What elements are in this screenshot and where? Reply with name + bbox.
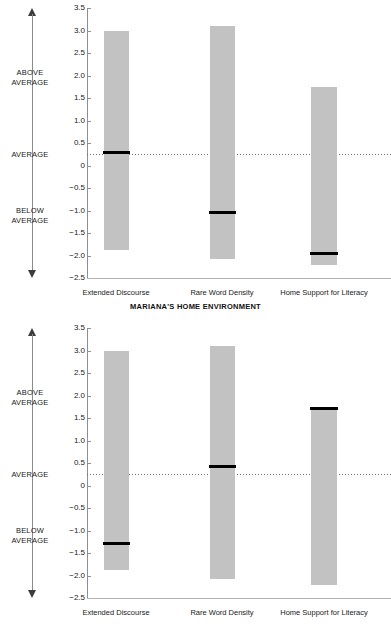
y-axis-tick-label: 2.0 [59,72,85,80]
y-axis-tick-label-text: 0.5 [61,139,85,147]
y-axis-tick-label-text: 3.5 [61,4,85,12]
y-axis-tick-label-text: 2.5 [61,369,85,377]
score-marker [209,211,236,214]
y-axis-tick-label: −1.5 [59,549,85,557]
category-label: Rare Word Density [190,288,253,298]
zero-reference-line [87,154,391,155]
y-axis-tick-label-text: −1.5 [61,549,85,557]
y-axis-tick-label: 2.5 [59,49,85,57]
y-axis-tick-label-text: −2.0 [61,252,85,260]
score-marker [310,252,338,255]
band-above-line1: ABOVE [17,388,44,397]
y-axis-tick-label: −0.5 [59,184,85,192]
arrow-shaft [32,334,33,592]
y-axis-tick [87,531,91,532]
y-axis-tick-label-text: 1.5 [61,94,85,102]
score-marker [103,542,130,545]
y-axis-tick-label: −2.0 [59,252,85,260]
band-label-below-average: BELOW AVERAGE [2,526,58,545]
score-marker [310,407,338,410]
y-axis-tick-label: 3.0 [59,347,85,355]
y-axis-tick [87,256,91,257]
arrow-shaft [32,14,33,272]
band-below-line2: AVERAGE [11,536,48,545]
arrow-down-icon [28,590,36,598]
y-axis-tick-label: −2.0 [59,572,85,580]
y-axis-tick-label: 1.0 [59,437,85,445]
y-axis-tick [87,8,91,9]
y-axis-tick-label: 1.0 [59,117,85,125]
band-above-line2: AVERAGE [11,398,48,407]
category-label: Rare Word Density [190,608,253,618]
y-axis-tick-label: 0.5 [59,139,85,147]
y-axis-tick-label: 0 [59,482,85,490]
chart-panel-mariana: ABOVE AVERAGE AVERAGE BELOW AVERAGE 3.53… [0,0,391,320]
y-axis-tick-label-text: −2.5 [61,274,85,282]
y-axis-tick-label-text: 1.5 [61,414,85,422]
y-axis-tick-label: −1.5 [59,229,85,237]
range-bar [210,346,235,579]
y-axis-tick-label-text: −2.0 [61,572,85,580]
y-axis-tick-label: 3.5 [59,324,85,332]
y-axis-tick [87,121,91,122]
x-axis-line [87,278,391,279]
category-label: Extended Discourse [82,288,149,298]
y-axis-tick [87,143,91,144]
y-axis-tick-label-text: 0 [61,162,85,170]
chart-panel-casey: ABOVE AVERAGE AVERAGE BELOW AVERAGE 3.53… [0,320,391,640]
y-axis-tick-label: 0.5 [59,459,85,467]
y-axis-tick [87,463,91,464]
band-below-line2: AVERAGE [11,216,48,225]
y-axis-tick-label-text: 2.0 [61,392,85,400]
y-axis-tick [87,418,91,419]
range-bar [311,87,337,266]
range-bar [210,26,235,259]
y-axis-tick [87,53,91,54]
category-label: Extended Discourse [82,608,149,618]
above-below-average-arrow [31,328,34,598]
range-bar [311,407,337,586]
y-axis-tick [87,188,91,189]
above-below-average-arrow [31,8,34,278]
y-axis-tick [87,328,91,329]
score-marker [103,151,130,154]
y-axis-tick-label: 2.0 [59,392,85,400]
y-axis-tick-label-text: 2.0 [61,72,85,80]
y-axis-tick-label: −1.0 [59,207,85,215]
plot-area-mariana: ABOVE AVERAGE AVERAGE BELOW AVERAGE 3.53… [0,0,391,320]
y-axis-tick-label: 2.5 [59,369,85,377]
y-axis-tick-label-text: 3.0 [61,347,85,355]
category-label: Home Support for Literacy [280,288,368,298]
y-axis-tick [87,351,91,352]
y-axis-tick [87,76,91,77]
band-label-above-average: ABOVE AVERAGE [2,388,58,407]
y-axis-tick-label: 1.5 [59,414,85,422]
y-axis-tick [87,576,91,577]
y-axis-tick [87,166,91,167]
y-axis-tick-label-text: −1.0 [61,207,85,215]
plot-area-casey: ABOVE AVERAGE AVERAGE BELOW AVERAGE 3.53… [0,320,391,640]
arrow-down-icon [28,270,36,278]
y-axis-tick-label: −1.0 [59,527,85,535]
band-below-line1: BELOW [16,526,44,535]
y-axis-tick [87,441,91,442]
y-axis-tick-label-text: 3.0 [61,27,85,35]
band-label-average: AVERAGE [2,470,58,480]
x-axis-line [87,598,391,599]
y-axis-tick [87,396,91,397]
y-axis-tick-label: −2.5 [59,594,85,602]
range-bar [104,351,129,570]
y-axis-tick [87,31,91,32]
y-axis-tick-label: −2.5 [59,274,85,282]
y-axis-tick-label: −0.5 [59,504,85,512]
y-axis-tick-label-text: −0.5 [61,504,85,512]
y-axis-tick [87,486,91,487]
y-axis-tick-label-text: 2.5 [61,49,85,57]
y-axis-tick-label-text: −2.5 [61,594,85,602]
band-above-line1: ABOVE [17,68,44,77]
y-axis-tick-label-text: 0 [61,482,85,490]
y-axis-tick-label-text: 0.5 [61,459,85,467]
y-axis-tick-label: 3.0 [59,27,85,35]
y-axis-tick-label-text: −1.5 [61,229,85,237]
y-axis-tick-label: 3.5 [59,4,85,12]
